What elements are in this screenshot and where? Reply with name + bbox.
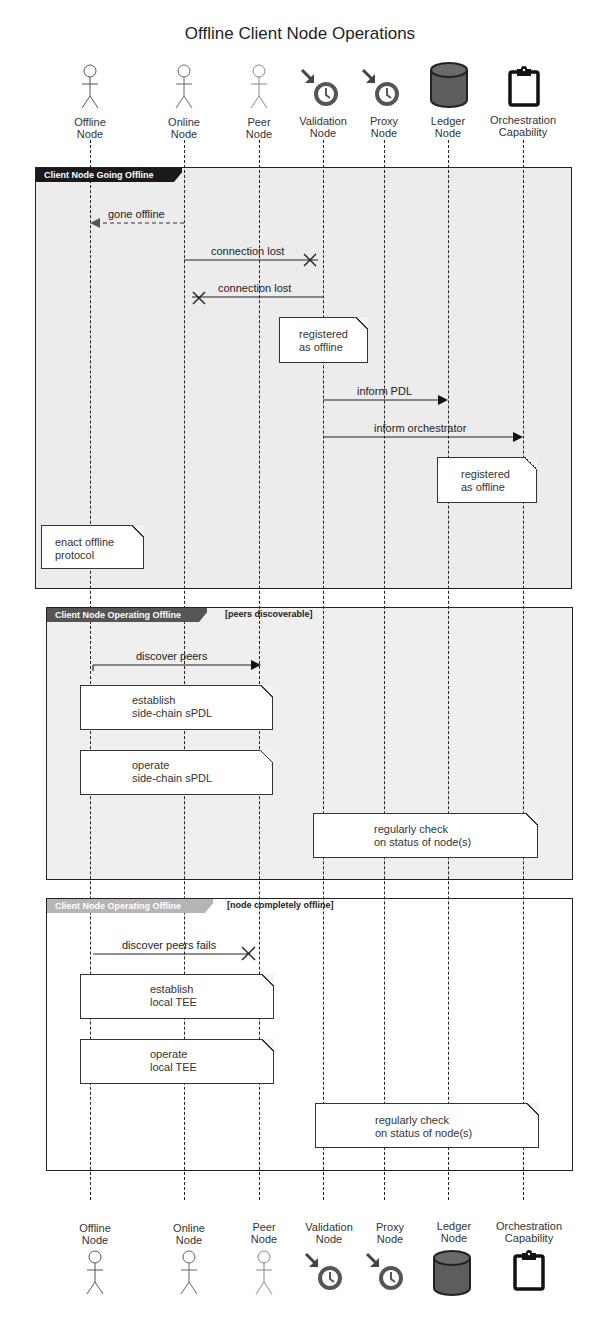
message-inform-orchestrator: inform orchestrator — [374, 422, 466, 434]
note-registered-offline-orchestration: registered as offline — [437, 457, 537, 503]
participant-offline-node-bottom: Offline Node — [50, 1222, 140, 1246]
note-enact-offline-protocol: enact offline protocol — [41, 525, 144, 569]
note-establish-sidechain: establish side-chain sPDL — [80, 685, 273, 730]
actor-icon — [179, 1250, 199, 1296]
note-registered-offline-validation: registered as offline — [279, 317, 368, 363]
note-regularly-check-1: regularly check on status of node(s) — [313, 813, 538, 858]
message-inform-pdl: inform PDL — [357, 385, 412, 397]
message-gone-offline: gone offline — [108, 208, 165, 220]
note-operate-local-tee: operate local TEE — [80, 1039, 274, 1084]
note-establish-local-tee: establish local TEE — [80, 974, 274, 1019]
participant-orchestration-capability-bottom: Orchestration Capability — [484, 1220, 574, 1244]
actor-icon — [85, 1250, 105, 1296]
message-discover-peers: discover peers — [136, 650, 208, 662]
clipboard-icon — [512, 1250, 546, 1292]
note-regularly-check-2: regularly check on status of node(s) — [315, 1103, 539, 1148]
actor-icon — [254, 1250, 274, 1296]
clock-arrow-icon — [365, 1252, 405, 1292]
message-discover-peers-fails: discover peers fails — [122, 939, 216, 951]
database-icon — [432, 1250, 472, 1296]
message-connection-lost-1: connection lost — [211, 245, 284, 257]
clock-arrow-icon — [304, 1252, 344, 1292]
note-operate-sidechain: operate side-chain sPDL — [80, 750, 273, 795]
message-connection-lost-2: connection lost — [218, 282, 291, 294]
